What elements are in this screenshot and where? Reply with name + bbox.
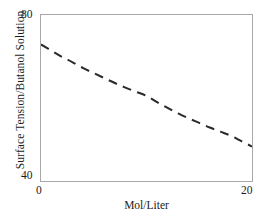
x-axis-tick-label-0: 0: [36, 184, 42, 196]
data-curve-svg: [41, 15, 252, 181]
y-axis-tick-label-80: 80: [21, 8, 33, 20]
x-axis-tick-label-20: 20: [241, 184, 253, 196]
y-axis-title: Surface Tension/Butanol Solution: [14, 6, 30, 174]
plot-area: [40, 14, 253, 182]
series-line-surface-tension: [41, 44, 252, 146]
x-axis-title: Mol/Liter: [40, 199, 253, 211]
y-axis-tick-label-40: 40: [21, 169, 33, 181]
chart-figure: Surface Tension/Butanol Solution 80 40 0…: [0, 0, 270, 220]
